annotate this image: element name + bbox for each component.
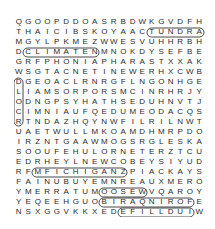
grid-letter[interactable]: Z xyxy=(119,167,129,177)
grid-letter[interactable]: N xyxy=(43,177,53,187)
grid-letter[interactable]: I xyxy=(185,207,195,217)
grid-letter[interactable]: D xyxy=(43,117,53,127)
grid-letter[interactable]: N xyxy=(176,117,186,127)
grid-letter[interactable]: A xyxy=(138,177,148,187)
grid-letter[interactable]: H xyxy=(52,57,62,67)
grid-letter[interactable]: H xyxy=(166,37,176,47)
grid-letter[interactable]: U xyxy=(14,127,24,137)
grid-letter[interactable]: E xyxy=(138,157,148,167)
grid-letter[interactable]: C xyxy=(109,157,119,167)
grid-letter[interactable]: R xyxy=(109,17,119,27)
grid-letter[interactable]: O xyxy=(109,137,119,147)
grid-letter[interactable]: R xyxy=(119,177,129,187)
grid-letter[interactable]: G xyxy=(147,77,157,87)
grid-letter[interactable]: G xyxy=(24,37,34,47)
grid-letter[interactable]: O xyxy=(195,127,205,137)
grid-letter[interactable]: K xyxy=(195,57,205,67)
grid-letter[interactable]: D xyxy=(138,47,148,57)
grid-letter[interactable]: P xyxy=(81,87,91,97)
grid-letter[interactable]: T xyxy=(43,127,53,137)
grid-letter[interactable]: M xyxy=(100,47,110,57)
grid-letter[interactable]: E xyxy=(128,147,138,157)
grid-letter[interactable]: H xyxy=(71,147,81,157)
grid-letter[interactable]: O xyxy=(24,147,34,157)
grid-letter[interactable]: Z xyxy=(90,37,100,47)
grid-letter[interactable]: M xyxy=(119,87,129,97)
grid-letter[interactable]: S xyxy=(195,167,205,177)
grid-letter[interactable]: Z xyxy=(166,147,176,157)
grid-letter[interactable]: Y xyxy=(14,197,24,207)
grid-letter[interactable]: A xyxy=(81,137,91,147)
grid-letter[interactable]: Z xyxy=(33,137,43,147)
grid-letter[interactable]: E xyxy=(90,177,100,187)
grid-letter[interactable]: S xyxy=(62,97,72,107)
grid-letter[interactable]: S xyxy=(119,97,129,107)
grid-letter[interactable]: I xyxy=(166,157,176,167)
grid-letter[interactable]: N xyxy=(33,117,43,127)
grid-letter[interactable]: E xyxy=(138,67,148,77)
grid-letter[interactable]: G xyxy=(90,167,100,177)
grid-letter[interactable]: A xyxy=(119,27,129,37)
grid-letter[interactable]: K xyxy=(71,207,81,217)
grid-letter[interactable]: R xyxy=(14,167,24,177)
grid-letter[interactable]: O xyxy=(100,187,110,197)
grid-letter[interactable]: E xyxy=(43,197,53,207)
grid-letter[interactable]: E xyxy=(24,197,34,207)
grid-letter[interactable]: H xyxy=(195,37,205,47)
grid-letter[interactable]: H xyxy=(157,97,167,107)
grid-letter[interactable]: E xyxy=(128,97,138,107)
grid-letter[interactable]: E xyxy=(119,67,129,77)
grid-letter[interactable]: A xyxy=(128,197,138,207)
grid-letter[interactable]: M xyxy=(90,187,100,197)
grid-letter[interactable]: T xyxy=(185,97,195,107)
grid-letter[interactable]: G xyxy=(119,137,129,147)
grid-letter[interactable]: H xyxy=(147,127,157,137)
grid-letter[interactable]: I xyxy=(52,167,62,177)
grid-letter[interactable]: D xyxy=(176,27,186,37)
grid-letter[interactable]: I xyxy=(109,197,119,207)
grid-letter[interactable]: S xyxy=(157,47,167,57)
grid-letter[interactable]: D xyxy=(24,157,34,167)
grid-letter[interactable]: M xyxy=(100,137,110,147)
grid-letter[interactable]: Q xyxy=(81,117,91,127)
grid-letter[interactable]: F xyxy=(176,47,186,57)
grid-letter[interactable]: O xyxy=(147,107,157,117)
grid-letter[interactable]: W xyxy=(109,37,119,47)
grid-letter[interactable]: R xyxy=(166,127,176,137)
grid-letter[interactable]: M xyxy=(128,107,138,117)
grid-letter[interactable]: X xyxy=(176,57,186,67)
grid-letter[interactable]: N xyxy=(43,107,53,117)
grid-letter[interactable]: F xyxy=(33,57,43,67)
grid-letter[interactable]: E xyxy=(52,197,62,207)
grid-letter[interactable]: R xyxy=(100,77,110,87)
grid-letter[interactable]: G xyxy=(62,137,72,147)
grid-letter[interactable]: E xyxy=(33,77,43,87)
grid-letter[interactable]: M xyxy=(157,127,167,137)
grid-letter[interactable]: D xyxy=(195,157,205,167)
grid-letter[interactable]: R xyxy=(14,117,24,127)
grid-letter[interactable]: I xyxy=(128,117,138,127)
grid-letter[interactable]: U xyxy=(185,157,195,167)
grid-letter[interactable]: F xyxy=(185,197,195,207)
grid-letter[interactable]: O xyxy=(185,187,195,197)
grid-letter[interactable]: D xyxy=(166,207,176,217)
grid-letter[interactable]: F xyxy=(14,177,24,187)
grid-letter[interactable]: X xyxy=(166,57,176,67)
grid-letter[interactable]: K xyxy=(90,27,100,37)
grid-letter[interactable]: T xyxy=(71,47,81,57)
grid-letter[interactable]: W xyxy=(138,187,148,197)
grid-letter[interactable]: Y xyxy=(195,187,205,197)
grid-letter[interactable]: I xyxy=(52,107,62,117)
grid-letter[interactable]: G xyxy=(24,77,34,87)
grid-letter[interactable]: O xyxy=(176,197,186,207)
grid-letter[interactable]: C xyxy=(62,77,72,87)
grid-letter[interactable]: I xyxy=(62,27,72,37)
grid-letter[interactable]: H xyxy=(157,67,167,77)
grid-letter[interactable]: N xyxy=(43,137,53,147)
grid-letter[interactable]: R xyxy=(138,137,148,147)
grid-letter[interactable]: O xyxy=(157,77,167,87)
grid-letter[interactable]: K xyxy=(81,207,91,217)
grid-letter[interactable]: G xyxy=(52,207,62,217)
grid-letter[interactable]: E xyxy=(100,207,110,217)
grid-letter[interactable]: Q xyxy=(157,187,167,197)
